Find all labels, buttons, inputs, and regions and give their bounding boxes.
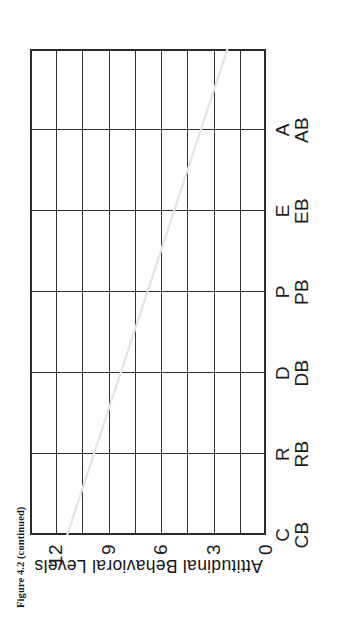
vertical-gridline xyxy=(30,129,266,130)
horizontal-gridline xyxy=(56,49,57,535)
vertical-gridline xyxy=(30,210,266,211)
y-tick-label: 6 xyxy=(150,544,172,555)
horizontal-gridline xyxy=(239,49,240,535)
x-tick-short: C xyxy=(273,521,292,548)
x-tick-code: DB xyxy=(292,359,311,386)
x-tick-label-cb: CCB xyxy=(273,521,312,548)
x-tick-label-rb: RRB xyxy=(273,440,312,467)
y-tick-label: 3 xyxy=(202,544,224,555)
x-tick-code: PB xyxy=(292,279,311,305)
y-axis-title-label: Attitudinal Behavioral Levels xyxy=(33,555,262,576)
horizontal-gridline xyxy=(213,49,214,535)
x-tick-code: AB xyxy=(292,117,311,143)
plot-area: 036912 CCBRRBDDBPPBEEBAAB xyxy=(30,49,266,535)
horizontal-gridline xyxy=(161,49,162,535)
x-tick-label-db: DDB xyxy=(273,359,312,386)
horizontal-gridline xyxy=(187,49,188,535)
horizontal-gridline xyxy=(134,49,135,535)
vertical-gridline xyxy=(30,372,266,373)
x-tick-code: RB xyxy=(292,440,311,467)
x-tick-short: A xyxy=(273,117,292,143)
vertical-gridline xyxy=(30,453,266,454)
x-tick-short: E xyxy=(273,198,292,224)
x-tick-short: P xyxy=(273,279,292,305)
x-tick-short: D xyxy=(273,359,292,386)
y-tick-label: 9 xyxy=(97,544,119,555)
y-tick-label: 12 xyxy=(45,544,67,566)
x-tick-code: EB xyxy=(292,198,311,224)
x-tick-label-pb: PPB xyxy=(273,279,312,305)
x-tick-short: R xyxy=(273,440,292,467)
x-tick-code: CB xyxy=(292,521,311,548)
horizontal-gridline xyxy=(108,49,109,535)
x-tick-label-eb: EEB xyxy=(273,198,312,224)
figure-chart: Attitudinal Behavioral Levels 036912 CCB… xyxy=(22,31,322,591)
horizontal-gridline xyxy=(82,49,83,535)
x-tick-label-ab: AAB xyxy=(273,117,312,143)
vertical-gridline xyxy=(30,291,266,292)
